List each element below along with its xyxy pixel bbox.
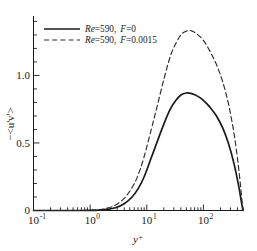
x-tick-label-exponent: 0 bbox=[96, 212, 100, 221]
legend-f-value: =0 bbox=[126, 24, 136, 34]
reynolds-stress-chart: 10-1100101102 00.51.0 y+ −<u'v'> Re=590,… bbox=[0, 0, 257, 251]
x-tick-label-exponent: 1 bbox=[153, 212, 157, 221]
x-tick-label: 10-1 bbox=[28, 212, 46, 226]
x-axis-title: y+ bbox=[132, 233, 143, 245]
legend-re-value: =590, bbox=[95, 24, 117, 34]
x-axis-tick-labels: 10-1100101102 bbox=[28, 212, 214, 226]
legend-re-value: =590, bbox=[95, 35, 117, 45]
legend-re-symbol: Re bbox=[84, 24, 95, 34]
figure-container: 10-1100101102 00.51.0 y+ −<u'v'> Re=590,… bbox=[0, 0, 257, 251]
legend-f-value: =0.0015 bbox=[126, 35, 157, 45]
y-tick-label: 0 bbox=[25, 204, 31, 216]
y-axis-title: −<u'v'> bbox=[4, 107, 16, 141]
y-axis-tick-labels: 00.51.0 bbox=[16, 69, 30, 216]
legend-label-0: Re=590,F=0 bbox=[84, 24, 136, 34]
y-axis-title-text: −<u'v'> bbox=[4, 107, 16, 141]
x-tick-label-exponent: -1 bbox=[40, 212, 46, 221]
x-tick-label-mantissa: 10 bbox=[141, 214, 153, 226]
x-tick-label: 101 bbox=[141, 212, 157, 226]
x-tick-label-exponent: 2 bbox=[210, 212, 214, 221]
x-tick-label-mantissa: 10 bbox=[85, 214, 97, 226]
y-tick-label: 0.5 bbox=[16, 137, 30, 149]
y-tick-label: 1.0 bbox=[16, 69, 30, 81]
legend-label-1: Re=590,F=0.0015 bbox=[84, 35, 157, 45]
x-tick-label: 102 bbox=[198, 212, 214, 226]
legend-re-symbol: Re bbox=[84, 35, 95, 45]
plot-background bbox=[33, 16, 243, 210]
x-tick-label: 100 bbox=[85, 212, 101, 226]
x-axis-title-text: y+ bbox=[132, 233, 143, 245]
x-tick-label-mantissa: 10 bbox=[198, 214, 210, 226]
